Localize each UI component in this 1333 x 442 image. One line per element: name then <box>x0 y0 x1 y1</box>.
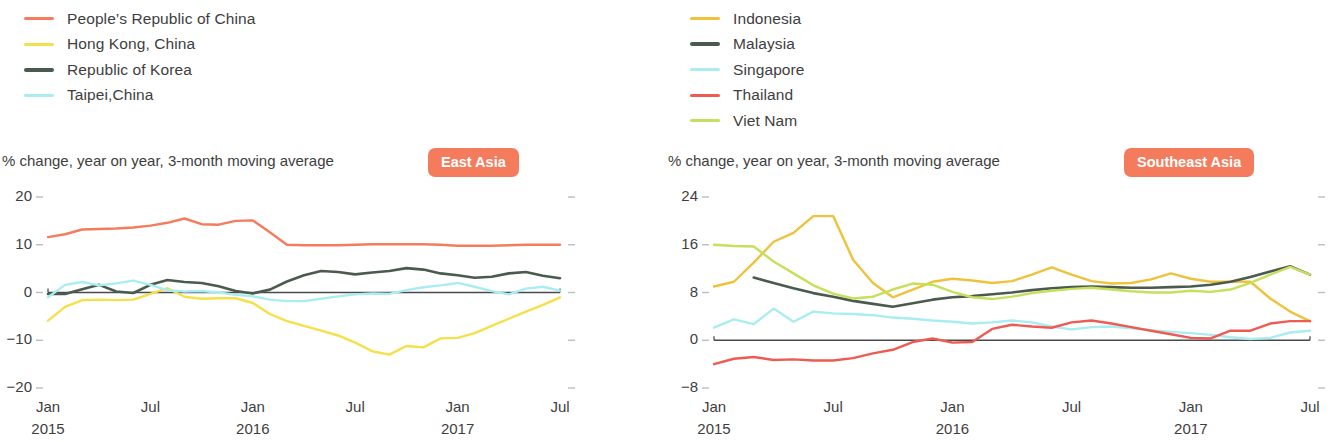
x-axis-label-month: Jul <box>110 398 190 415</box>
y-axis-label: −20 <box>7 378 32 395</box>
x-axis-label-month: Jan <box>912 398 992 415</box>
legend-item: Singapore <box>690 57 805 83</box>
legend-item: Republic of Korea <box>24 57 255 83</box>
y-axis-label: −10 <box>7 330 32 347</box>
legend-item: Viet Nam <box>690 108 805 134</box>
legend-item-label: Malaysia <box>733 35 795 53</box>
x-axis-label-month: Jul <box>1270 398 1333 415</box>
legend-color-swatch-icon <box>24 43 54 46</box>
plot-east-asia: 20100−10−20Jan2015JulJan2016JulJan2017Ju… <box>0 185 666 400</box>
x-axis-label-month: Jul <box>315 398 395 415</box>
legend-item-label: Hong Kong, China <box>67 35 195 53</box>
legend-item-label: People’s Republic of China <box>67 10 255 28</box>
legend-item-label: Viet Nam <box>733 112 797 130</box>
data-series-line <box>714 321 1310 365</box>
x-axis-label-month: Jul <box>520 398 600 415</box>
x-axis-label-month: Jul <box>793 398 873 415</box>
y-axis-label: 0 <box>24 283 32 300</box>
legend-item-label: Singapore <box>733 61 805 79</box>
legend-item-label: Republic of Korea <box>67 61 192 79</box>
legend-east-asia: People’s Republic of ChinaHong Kong, Chi… <box>24 6 255 108</box>
legend-item-label: Thailand <box>733 86 793 104</box>
chart-canvas <box>0 185 666 400</box>
legend-item: Malaysia <box>690 32 805 58</box>
legend-southeast-asia: IndonesiaMalaysiaSingaporeThailandViet N… <box>690 6 805 134</box>
subtitle-southeast-asia: % change, year on year, 3-month moving a… <box>668 152 1000 169</box>
data-series-line <box>714 216 1310 321</box>
y-axis-label: 10 <box>15 235 32 252</box>
subtitle-east-asia: % change, year on year, 3-month moving a… <box>2 152 334 169</box>
badge-southeast-asia: Southeast Asia <box>1124 148 1254 177</box>
legend-item: Indonesia <box>690 6 805 32</box>
legend-item: Thailand <box>690 83 805 109</box>
x-axis-label-month: Jan <box>213 398 293 415</box>
x-axis-label-month: Jan <box>418 398 498 415</box>
legend-item: Hong Kong, China <box>24 32 255 58</box>
y-axis-label: 20 <box>15 187 32 204</box>
x-axis-label-month: Jan <box>1151 398 1231 415</box>
x-axis-label-month: Jan <box>674 398 754 415</box>
y-axis-label: 8 <box>690 283 698 300</box>
panel-east-asia: People’s Republic of ChinaHong Kong, Chi… <box>0 0 666 442</box>
x-axis-label-year: 2016 <box>912 420 992 437</box>
data-series-line <box>48 288 560 354</box>
x-axis-label-month: Jan <box>8 398 88 415</box>
dual-line-chart-figure: People’s Republic of ChinaHong Kong, Chi… <box>0 0 1333 442</box>
y-axis-label: 0 <box>690 330 698 347</box>
legend-item-label: Indonesia <box>733 10 801 28</box>
legend-color-swatch-icon <box>24 94 54 97</box>
x-axis-label-year: 2017 <box>1151 420 1231 437</box>
x-axis-label-year: 2015 <box>674 420 754 437</box>
legend-color-swatch-icon <box>690 94 720 97</box>
data-series-line <box>754 266 1310 307</box>
legend-color-swatch-icon <box>690 42 720 46</box>
data-series-line <box>48 281 560 302</box>
y-axis-label: 24 <box>681 187 698 204</box>
y-axis-label: −8 <box>681 378 698 395</box>
legend-item: Taipei,China <box>24 83 255 109</box>
data-series-line <box>48 218 560 245</box>
y-axis-label: 16 <box>681 235 698 252</box>
x-axis-label-year: 2015 <box>8 420 88 437</box>
legend-item-label: Taipei,China <box>67 86 154 104</box>
legend-color-swatch-icon <box>690 68 720 71</box>
badge-east-asia: East Asia <box>428 148 519 177</box>
x-axis-label-year: 2016 <box>213 420 293 437</box>
legend-item: People’s Republic of China <box>24 6 255 32</box>
plot-southeast-asia: 241680−8Jan2015JulJan2016JulJan2017Jul <box>666 185 1332 400</box>
x-axis-label-year: 2017 <box>418 420 498 437</box>
panel-southeast-asia: IndonesiaMalaysiaSingaporeThailandViet N… <box>666 0 1332 442</box>
chart-canvas <box>666 185 1332 400</box>
legend-color-swatch-icon <box>690 119 720 122</box>
legend-color-swatch-icon <box>690 17 720 20</box>
legend-color-swatch-icon <box>24 17 54 20</box>
x-axis-label-month: Jul <box>1032 398 1112 415</box>
legend-color-swatch-icon <box>24 68 54 72</box>
